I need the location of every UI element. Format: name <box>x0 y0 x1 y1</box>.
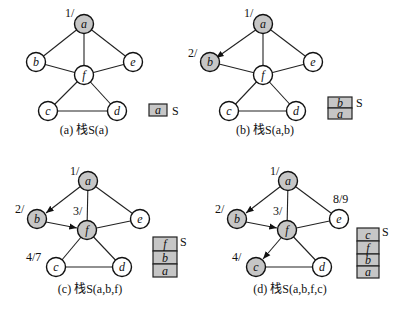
node-a: a <box>279 172 298 191</box>
node-b: b <box>201 53 220 72</box>
node-d: d <box>287 102 306 121</box>
stack-c: f b a S <box>153 235 187 278</box>
svg-text:b: b <box>162 251 168 265</box>
svg-text:b: b <box>234 212 240 226</box>
svg-text:b: b <box>33 55 39 69</box>
svg-text:c: c <box>365 228 371 242</box>
svg-text:d: d <box>114 104 121 118</box>
svg-text:a: a <box>155 103 161 117</box>
svg-text:e: e <box>137 212 143 226</box>
stack-a: a S <box>149 103 179 118</box>
node-c: c <box>247 258 266 277</box>
node-b: b <box>28 210 47 229</box>
time-label-c: 4/7 <box>26 250 41 264</box>
node-d: d <box>113 258 132 277</box>
node-a: a <box>254 15 273 34</box>
node-e: e <box>131 210 150 229</box>
svg-text:e: e <box>130 55 136 69</box>
node-c: c <box>47 258 66 277</box>
node-d: d <box>313 258 332 277</box>
caption-c: (c) 栈S(a,b,f) <box>58 281 122 296</box>
svg-text:S: S <box>172 104 179 118</box>
panel-d: a b e f c d 1/ 2/ 3/ 4/ 8/9 c f b a S (d… <box>215 164 389 296</box>
node-a: a <box>75 15 94 34</box>
svg-text:c: c <box>45 104 51 118</box>
node-e: e <box>330 210 349 229</box>
node-b: b <box>27 53 46 72</box>
time-label-a: 1/ <box>70 164 80 178</box>
svg-text:d: d <box>119 260 126 274</box>
panel-a: a b e f c d 1/ a S (a) 栈S(a) <box>27 6 179 137</box>
svg-text:S: S <box>382 225 389 239</box>
svg-text:c: c <box>226 104 232 118</box>
stack-d: c f b a S <box>357 225 389 279</box>
svg-text:b: b <box>207 55 213 69</box>
node-d: d <box>108 102 127 121</box>
node-a: a <box>79 172 98 191</box>
svg-text:a: a <box>337 107 343 121</box>
panel-c: a b e f c d 1/ 2/ 3/ 4/7 f b a S (c) 栈S(… <box>15 164 187 296</box>
time-label-b: 2/ <box>188 46 198 60</box>
time-label-b: 2/ <box>215 202 225 216</box>
svg-text:c: c <box>53 260 59 274</box>
node-e: e <box>124 53 143 72</box>
tree-edge-b-f <box>46 222 77 228</box>
tree-edge-f-c <box>263 238 281 259</box>
time-label-f: 3/ <box>273 204 283 218</box>
dfs-stack-diagram: a b e f c d 1/ a S (a) 栈S(a) a b e f c d <box>0 0 406 311</box>
node-c: c <box>39 102 58 121</box>
time-label-f: 3/ <box>73 204 83 218</box>
node-f: f <box>278 221 297 240</box>
time-label-e: 8/9 <box>333 192 348 206</box>
node-b: b <box>228 210 247 229</box>
svg-text:a: a <box>85 174 91 188</box>
svg-text:d: d <box>319 260 326 274</box>
svg-text:e: e <box>336 212 342 226</box>
node-f: f <box>78 221 97 240</box>
time-label-c: 4/ <box>232 250 242 264</box>
svg-text:S: S <box>356 96 363 110</box>
caption-b: (b) 栈S(a,b) <box>236 122 294 137</box>
caption-a: (a) 栈S(a) <box>60 122 108 137</box>
svg-text:a: a <box>285 174 291 188</box>
svg-text:d: d <box>293 104 300 118</box>
time-label-b: 2/ <box>15 202 25 216</box>
tree-edge-a-b <box>216 29 257 58</box>
time-label-a: 1/ <box>65 6 75 20</box>
node-f: f <box>75 66 94 85</box>
node-c: c <box>220 102 239 121</box>
svg-text:a: a <box>365 265 371 279</box>
svg-text:c: c <box>253 260 259 274</box>
svg-text:a: a <box>162 264 168 278</box>
panel-b: a b e f c d 1/ 2/ b a S (b) 栈S(a,b) <box>188 6 363 137</box>
time-label-a: 1/ <box>244 6 254 20</box>
svg-text:a: a <box>260 17 266 31</box>
stack-b: b a S <box>328 96 363 121</box>
svg-text:e: e <box>310 55 316 69</box>
time-label-a: 1/ <box>270 164 280 178</box>
svg-text:S: S <box>180 235 187 249</box>
svg-text:a: a <box>81 17 87 31</box>
caption-d: (d) 栈S(a,b,f,c) <box>253 281 326 296</box>
node-e: e <box>304 53 323 72</box>
node-f: f <box>254 66 273 85</box>
tree-edge-b-f <box>246 222 277 228</box>
svg-text:b: b <box>34 212 40 226</box>
